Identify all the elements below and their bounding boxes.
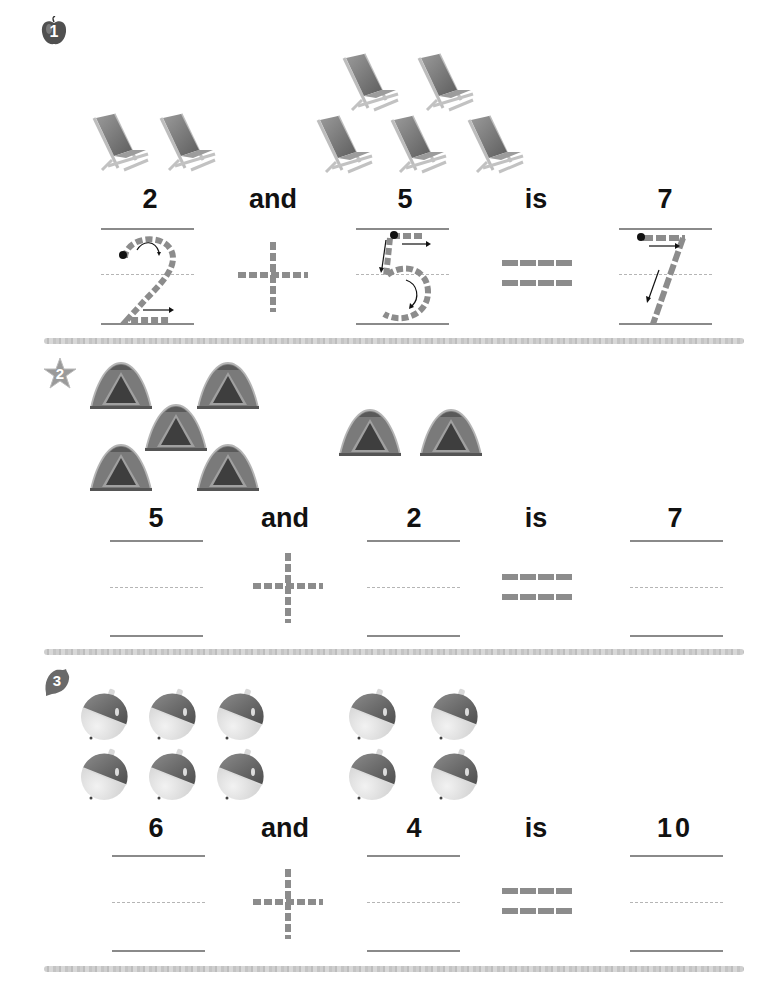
and-label: and — [225, 503, 345, 533]
trace-2-guide — [101, 228, 194, 325]
exercise-number: 3 — [42, 672, 72, 689]
section-divider — [44, 649, 744, 655]
ornament-ball-icon — [145, 748, 199, 802]
leaf-icon: 3 — [42, 667, 72, 697]
deck-chair-icon — [338, 50, 402, 114]
ornament-ball-icon — [345, 688, 399, 742]
and-label: and — [225, 813, 345, 843]
ornament-ball-icon — [213, 688, 267, 742]
ornament-ball-icon — [77, 688, 131, 742]
deck-chair-icon — [312, 112, 376, 176]
section-divider — [44, 966, 744, 972]
equals-sign-icon — [502, 257, 574, 287]
deck-chair-icon — [386, 112, 450, 176]
plus-sign-icon — [253, 553, 323, 623]
deck-chair-icon — [463, 112, 527, 176]
addend-a-label: 5 — [96, 503, 216, 533]
and-label: and — [213, 184, 333, 214]
sum-label: 7 — [605, 184, 725, 214]
sum-label: 10 — [615, 813, 735, 843]
tent-icon — [88, 442, 154, 492]
addend-a-label: 6 — [96, 813, 216, 843]
sum-label: 7 — [615, 503, 735, 533]
apple-icon: 1 — [40, 16, 68, 46]
deck-chair-icon — [155, 110, 219, 174]
ornament-ball-icon — [77, 748, 131, 802]
exercise-number: 1 — [40, 23, 68, 41]
ornament-ball-icon — [145, 688, 199, 742]
trace-5-guide — [356, 228, 449, 325]
ornament-ball-icon — [427, 688, 481, 742]
exercise-number: 2 — [42, 365, 78, 382]
ornament-ball-icon — [345, 748, 399, 802]
ornament-ball-icon — [427, 748, 481, 802]
addend-b-label: 2 — [354, 503, 474, 533]
tent-icon — [418, 407, 484, 457]
tent-icon — [337, 407, 403, 457]
tent-icon — [195, 442, 261, 492]
plus-sign-icon — [253, 869, 323, 939]
addend-b-label: 4 — [354, 813, 474, 843]
is-label: is — [476, 503, 596, 533]
star-icon: 2 — [42, 357, 78, 391]
is-label: is — [476, 813, 596, 843]
equals-sign-icon — [502, 573, 574, 603]
equals-sign-icon — [502, 887, 574, 917]
is-label: is — [476, 184, 596, 214]
plus-sign-icon — [238, 242, 308, 312]
addend-b-label: 5 — [345, 184, 465, 214]
trace-7-guide — [619, 228, 712, 325]
section-divider — [44, 338, 744, 344]
addend-a-label: 2 — [90, 184, 210, 214]
deck-chair-icon — [88, 110, 152, 174]
deck-chair-icon — [413, 50, 477, 114]
ornament-ball-icon — [213, 748, 267, 802]
